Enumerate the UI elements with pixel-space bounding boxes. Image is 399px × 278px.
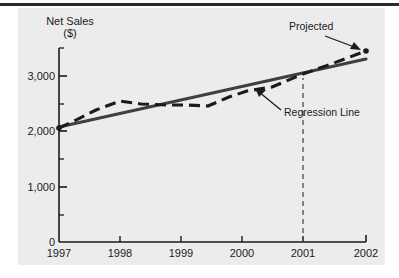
x-tick-label-2000: 2000 bbox=[230, 247, 254, 259]
x-tick-label-2002: 2002 bbox=[354, 247, 378, 259]
x-tick-label-2001: 2001 bbox=[291, 247, 315, 259]
x-tick-label-1999: 1999 bbox=[169, 247, 193, 259]
series-start-marker bbox=[56, 125, 62, 131]
chart-figure: Net Sales ($) 3,000 2,000 1,000 0 1997 1… bbox=[0, 0, 399, 278]
y-axis-title-line2: ($) bbox=[63, 27, 76, 39]
regression-arrow-shaft bbox=[259, 92, 281, 110]
x-tick-label-1998: 1998 bbox=[108, 247, 132, 259]
y-axis-title-line1: Net Sales bbox=[46, 15, 94, 27]
y-tick-label-2000: 2,000 bbox=[27, 125, 55, 137]
y-tick-label-3000: 3,000 bbox=[27, 70, 55, 82]
x-tick-label-1997: 1997 bbox=[47, 247, 71, 259]
projected-annotation-label: Projected bbox=[289, 20, 334, 32]
regression-line-annotation-label: Regression Line bbox=[284, 106, 360, 118]
chart-plot: Net Sales ($) 3,000 2,000 1,000 0 1997 1… bbox=[0, 0, 399, 278]
y-tick-label-1000: 1,000 bbox=[27, 181, 55, 193]
projected-endpoint-marker bbox=[363, 48, 369, 54]
